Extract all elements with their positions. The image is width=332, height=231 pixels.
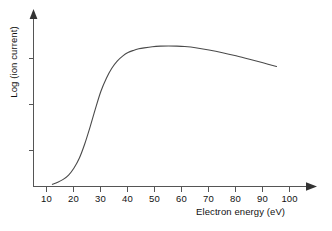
chart-figure: 10 20 30 40 50 60 70 80 90 100 Electron … xyxy=(0,0,332,231)
y-axis-arrow-icon xyxy=(30,9,38,19)
x-axis-ticks xyxy=(47,187,290,192)
x-tick-label-80: 80 xyxy=(222,193,249,204)
y-axis-title: Log (ion current) xyxy=(8,14,19,110)
x-axis-title: Electron energy (eV) xyxy=(196,206,285,217)
x-tick-label-70: 70 xyxy=(195,193,222,204)
x-tick-label-60: 60 xyxy=(168,193,195,204)
x-tick-label-40: 40 xyxy=(114,193,141,204)
axes-group xyxy=(30,9,317,191)
x-tick-label-90: 90 xyxy=(249,193,276,204)
data-curve-line xyxy=(52,46,276,184)
x-tick-label-20: 20 xyxy=(60,193,87,204)
y-axis-title-container: Log (ion current) xyxy=(8,14,24,110)
x-tick-label-100: 100 xyxy=(276,193,303,204)
x-tick-label-30: 30 xyxy=(87,193,114,204)
x-tick-label-10: 10 xyxy=(33,193,60,204)
x-tick-label-50: 50 xyxy=(141,193,168,204)
y-axis-ticks xyxy=(29,59,34,151)
x-axis-arrow-icon xyxy=(306,182,317,190)
